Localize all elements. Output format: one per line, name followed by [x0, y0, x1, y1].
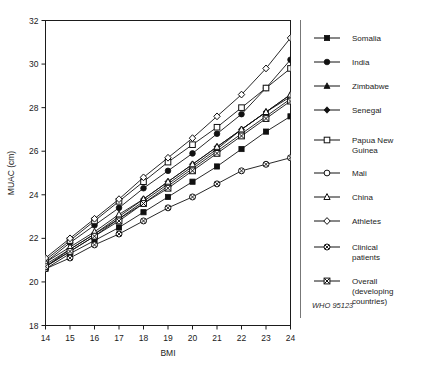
- legend-label: Somalia: [352, 34, 381, 43]
- legend-label: Papua New: [352, 136, 394, 145]
- legend-label: Zimbabwe: [352, 82, 389, 91]
- source-note: WHO 95123: [312, 301, 354, 310]
- series-papua-new-guinea: [43, 66, 294, 263]
- series-marker: [214, 164, 219, 169]
- y-axis-tick-label: 22: [29, 233, 39, 243]
- legend-item-papua-new-guinea[interactable]: [314, 137, 340, 143]
- series-somalia: [43, 114, 293, 272]
- y-axis-tick-label: 24: [29, 190, 39, 200]
- y-axis-tick-label: 30: [29, 59, 39, 69]
- y-axis-tick-label: 26: [29, 146, 39, 156]
- series-marker: [165, 168, 171, 174]
- series-line: [46, 116, 291, 269]
- legend-label: Guinea: [352, 146, 378, 155]
- legend-item-clinical-patients[interactable]: [314, 244, 340, 250]
- series-marker: [288, 57, 294, 63]
- series-marker: [324, 218, 330, 225]
- legend-item-senegal[interactable]: [314, 107, 340, 113]
- series-marker: [116, 211, 122, 217]
- legend-item-athletes[interactable]: [314, 218, 340, 225]
- series-marker: [287, 91, 293, 97]
- legend-label: Athletes: [352, 217, 381, 226]
- legend-label: Overall: [352, 277, 378, 286]
- legend-item-overall-developing-countries[interactable]: [314, 278, 340, 284]
- series-china: [42, 91, 293, 265]
- y-axis-tick-label: 32: [29, 16, 39, 26]
- legend-label: Senegal: [352, 106, 382, 115]
- series-marker: [239, 146, 244, 151]
- legend-label: countries): [352, 297, 387, 306]
- series-marker: [165, 194, 170, 199]
- series-marker: [324, 170, 330, 176]
- y-axis-tick-label: 20: [29, 277, 39, 287]
- legend-label: China: [352, 193, 373, 202]
- series-athletes: [42, 35, 293, 262]
- x-axis-tick-label: 20: [188, 333, 198, 343]
- series-marker: [324, 107, 330, 113]
- series-marker: [239, 105, 245, 111]
- series-line: [46, 38, 291, 258]
- x-axis-tick-label: 19: [163, 333, 173, 343]
- x-axis-tick-label: 15: [65, 333, 75, 343]
- x-axis-label: BMI: [160, 348, 175, 358]
- legend-label: Mali: [352, 169, 367, 178]
- legend-item-zimbabwe[interactable]: [314, 83, 340, 89]
- x-axis-tick-label: 14: [41, 333, 51, 343]
- x-axis-tick-label: 18: [139, 333, 149, 343]
- y-axis-tick-label: 28: [29, 103, 39, 113]
- x-axis-tick-label: 21: [212, 333, 222, 343]
- x-axis-tick-label: 24: [286, 333, 296, 343]
- x-axis-tick-label: 23: [261, 333, 271, 343]
- series-marker: [190, 142, 196, 148]
- series-marker: [239, 111, 245, 117]
- x-axis-tick-label: 16: [90, 333, 100, 343]
- legend-item-india[interactable]: [314, 59, 340, 65]
- series-marker: [288, 66, 294, 72]
- series-marker: [324, 35, 329, 40]
- x-axis-tick-label: 17: [114, 333, 124, 343]
- series-marker: [263, 129, 268, 134]
- series-marker: [190, 179, 195, 184]
- series-marker: [263, 85, 269, 91]
- plot-series-group: [42, 35, 293, 272]
- legend-label: patients: [352, 253, 380, 262]
- series-marker: [141, 185, 147, 191]
- series-marker: [214, 131, 220, 137]
- series-marker: [214, 124, 220, 130]
- series-marker: [141, 210, 146, 215]
- x-axis-tick-label: 22: [237, 333, 247, 343]
- y-axis-tick-label: 18: [29, 321, 39, 331]
- legend-label: (developing: [352, 287, 393, 296]
- series-marker: [324, 59, 330, 65]
- series-marker: [190, 151, 196, 157]
- series-marker: [116, 205, 122, 211]
- series-marker: [288, 114, 293, 119]
- chart-figure: 18202224262830321415161718192021222324BM…: [0, 0, 425, 371]
- series-marker: [116, 225, 121, 230]
- y-axis-label: MUAC (cm): [6, 151, 16, 196]
- legend-item-mali[interactable]: [314, 170, 340, 176]
- legend-label: Clinical: [352, 243, 378, 252]
- series-line: [46, 158, 291, 269]
- legend-label: India: [352, 58, 370, 67]
- chart-svg: 18202224262830321415161718192021222324BM…: [0, 0, 425, 371]
- legend-item-china[interactable]: [314, 194, 340, 200]
- legend-item-somalia[interactable]: [314, 35, 340, 40]
- series-marker: [324, 137, 330, 143]
